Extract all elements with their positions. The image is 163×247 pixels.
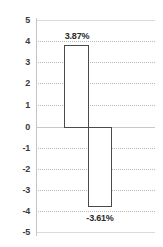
gridline-1: [36, 105, 155, 106]
bar-positive[interactable]: [64, 45, 89, 128]
data-label-positive: 3.87%: [54, 31, 100, 41]
gridline-5: [36, 20, 155, 21]
gridline-4: [36, 41, 155, 42]
y-tick-label-1: 1: [0, 101, 30, 110]
y-tick-label-neg3: -3: [0, 186, 30, 195]
y-tick-label-5: 5: [0, 16, 30, 25]
gridline-3: [36, 62, 155, 63]
gridline-neg5: [36, 232, 155, 233]
y-tick-label-neg1: -1: [0, 144, 30, 153]
y-tick-label-4: 4: [0, 37, 30, 46]
chart-container: 5 4 3 2 1 0 -1 -2 -3 -4 -5 3.87% -3.61%: [0, 0, 163, 247]
y-tick-label-neg2: -2: [0, 165, 30, 174]
data-label-negative: -3.61%: [77, 213, 123, 223]
gridline-neg4: [36, 211, 155, 212]
y-tick-label-2: 2: [0, 79, 30, 88]
gridline-2: [36, 83, 155, 84]
y-tick-label-0: 0: [0, 123, 30, 132]
y-tick-label-neg4: -4: [0, 207, 30, 216]
y-tick-label-3: 3: [0, 58, 30, 67]
y-axis-line: [36, 18, 37, 236]
y-tick-label-neg5: -5: [0, 228, 30, 237]
bar-negative[interactable]: [88, 127, 112, 207]
